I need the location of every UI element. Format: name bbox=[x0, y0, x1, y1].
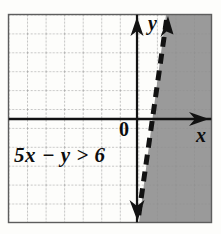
graph-canvas bbox=[0, 0, 221, 234]
inequality-graph-figure: 5x − y > 6 0 y x bbox=[0, 0, 221, 234]
origin-label: 0 bbox=[119, 118, 129, 141]
inequality-label: 5x − y > 6 bbox=[14, 143, 106, 168]
x-axis-label: x bbox=[196, 124, 206, 147]
y-axis-label: y bbox=[148, 12, 157, 35]
